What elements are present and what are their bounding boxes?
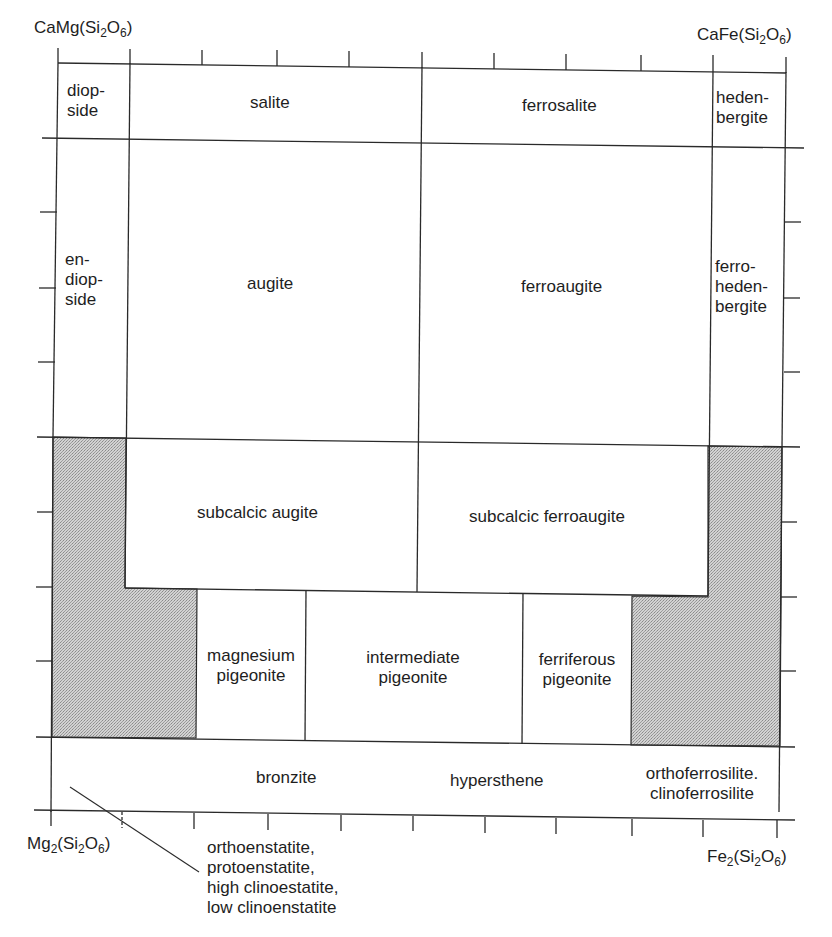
field-diopside: diop- side <box>67 81 105 121</box>
bottom-axis-ticks <box>51 810 777 838</box>
corner-label-mg2: Mg2(Si2O6) <box>27 834 110 854</box>
field-bronzite: bronzite <box>256 768 316 788</box>
field-salite: salite <box>250 93 290 113</box>
field-augite: augite <box>247 274 293 294</box>
corner-label-camg: CaMg(Si2O6) <box>34 18 132 38</box>
corner-label-fe2: Fe2(Si2O6) <box>707 847 787 867</box>
field-ferroaugite: ferroaugite <box>521 277 602 297</box>
field-intermediate-pigeonite: intermediate pigeonite <box>350 648 476 688</box>
field-ferriferous-pigeonite: ferriferous pigeonite <box>524 650 630 690</box>
field-hypersthene: hypersthene <box>450 771 544 791</box>
field-endiopside: en- diop- side <box>65 250 103 310</box>
field-ferrohedenbergite: ferro- heden- bergite <box>715 257 768 317</box>
field-ferrosalite: ferrosalite <box>522 96 597 116</box>
field-hedenbergite: heden- bergite <box>716 88 769 128</box>
callout-enstatite-polymorphs: orthoenstatite, protoenstatite, high cli… <box>207 838 338 918</box>
corner-label-cafe: CaFe(Si2O6) <box>697 25 792 45</box>
callout-leader-line <box>70 787 199 872</box>
field-magnesium-pigeonite: magnesium pigeonite <box>198 646 304 686</box>
field-subcalcic-augite: subcalcic augite <box>197 503 318 523</box>
field-orthoferrosilite: orthoferrosilite. clinoferrosilite <box>630 764 774 804</box>
field-subcalcic-ferroaugite: subcalcic ferroaugite <box>469 507 625 527</box>
